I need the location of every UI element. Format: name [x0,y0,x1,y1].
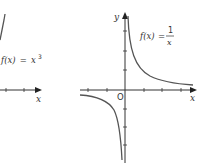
origin-label: O [117,92,124,102]
reciprocal-y-axis-label: y [113,12,120,22]
svg-text:f(x): f(x) [139,31,155,41]
reciprocal-curve-negative-branch [80,95,122,160]
reciprocal-x-axis-label: x [190,93,195,103]
cubic-x-axis-arrow-icon [35,87,42,93]
cubic-function-label: f(x) = x 3 [0,53,42,65]
svg-text:=: = [158,31,165,41]
svg-text:1: 1 [168,26,173,35]
cubic-graph: x f(x) = x 3 [0,14,42,104]
cubic-curve [0,14,5,40]
svg-text:x: x [167,38,172,47]
reciprocal-curve-positive-branch [128,16,193,85]
reciprocal-y-axis-arrow-icon [122,12,128,19]
function-graphs-figure: x f(x) = x 3 [0,0,209,164]
reciprocal-graph: y O x f(x) = 1 x [80,12,197,163]
cubic-x-axis-label: x [36,94,41,104]
reciprocal-function-label: f(x) = 1 x [139,26,174,47]
